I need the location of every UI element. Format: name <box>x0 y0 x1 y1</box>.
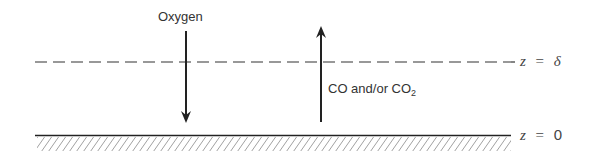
z-zero-label: z = 0 <box>520 127 562 143</box>
equals-sign: = <box>536 53 544 69</box>
z-var: z <box>520 53 526 69</box>
surface-hatching <box>37 137 511 151</box>
co-label-subscript: 2 <box>411 88 416 98</box>
oxygen-label: Oxygen <box>158 10 203 23</box>
delta-symbol: δ <box>554 53 561 69</box>
co-label: CO and/or CO2 <box>328 82 416 98</box>
zero-value: 0 <box>554 126 562 143</box>
co-arrow-up-icon <box>316 26 326 122</box>
z-var: z <box>520 127 526 143</box>
co-label-text: CO and/or CO <box>328 81 411 96</box>
z-delta-label: z = δ <box>520 54 561 69</box>
diagram-canvas <box>0 0 599 162</box>
equals-sign: = <box>536 127 544 143</box>
oxygen-arrow-down-icon <box>181 31 191 123</box>
